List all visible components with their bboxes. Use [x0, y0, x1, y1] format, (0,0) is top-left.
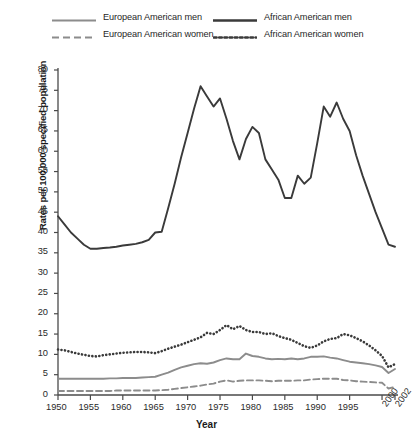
x-axis-tick-label: 1960: [111, 402, 132, 412]
plot-area: [0, 0, 413, 440]
chart-canvas: [0, 0, 413, 440]
y-axis-tick-label: 80: [22, 64, 48, 74]
chart-figure: European American men European American …: [0, 0, 413, 440]
series-line-african-american-men: [58, 86, 395, 249]
x-axis-tick-label: 1990: [305, 402, 326, 412]
series-line-european-american-men: [58, 354, 395, 379]
y-axis-tick-label: 10: [22, 348, 48, 358]
y-axis-tick-label: 5: [22, 368, 48, 378]
y-axis-tick-label: 15: [22, 328, 48, 338]
y-axis-tick-label: 40: [22, 226, 48, 236]
y-axis-tick-label: 75: [22, 84, 48, 94]
x-axis-tick-label: 1995: [338, 402, 359, 412]
y-axis-tick-label: 55: [22, 165, 48, 175]
y-axis-tick-label: 45: [22, 206, 48, 216]
y-axis-tick-label: 50: [22, 185, 48, 195]
x-axis-tick-label: 1980: [240, 402, 261, 412]
x-axis-title: Year: [0, 419, 413, 430]
series-line-european-american-women: [58, 379, 395, 391]
x-axis-tick-label: 1955: [78, 402, 99, 412]
y-axis-tick-label: 60: [22, 145, 48, 155]
y-axis-tick-label: 70: [22, 104, 48, 114]
y-axis-tick-label: 0: [22, 389, 48, 399]
y-axis-tick-label: 30: [22, 267, 48, 277]
x-axis-tick-label: 1965: [143, 402, 164, 412]
x-axis-tick-label: 1975: [208, 402, 229, 412]
x-axis-tick-label: 1970: [176, 402, 197, 412]
x-axis-tick-label: 1950: [46, 402, 67, 412]
y-axis-tick-label: 20: [22, 307, 48, 317]
x-axis-tick-label: 1985: [273, 402, 294, 412]
y-axis-tick-label: 35: [22, 246, 48, 256]
y-axis-tick-label: 25: [22, 287, 48, 297]
y-axis-tick-label: 65: [22, 124, 48, 134]
